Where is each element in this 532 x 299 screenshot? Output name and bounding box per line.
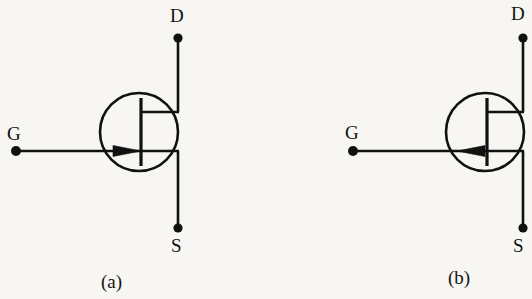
jfet-b-drain-label: D bbox=[511, 4, 525, 23]
jfet-b-gate-arrowhead-outward-icon bbox=[457, 146, 485, 157]
jfet-a-drain-terminal-dot bbox=[173, 33, 182, 42]
jfet-a-gate-terminal-dot bbox=[11, 146, 21, 156]
jfet-b-gate-label: G bbox=[345, 123, 359, 142]
diagram-b-p-channel-jfet bbox=[348, 33, 528, 232]
jfet-b-source-terminal-dot bbox=[518, 223, 527, 232]
jfet-a-envelope-circle bbox=[100, 93, 178, 171]
jfet-a-gate-label: G bbox=[7, 124, 21, 143]
jfet-b-source-label: S bbox=[513, 236, 524, 255]
diagram-a-n-channel-jfet bbox=[11, 33, 183, 232]
jfet-b-envelope-circle bbox=[446, 93, 524, 171]
figure-caption-a: (a) bbox=[101, 272, 122, 291]
jfet-a-drain-label: D bbox=[170, 6, 184, 25]
jfet-a-gate-arrowhead-inward-icon bbox=[113, 146, 141, 157]
jfet-a-source-label: S bbox=[171, 236, 182, 255]
jfet-b-drain-terminal-dot bbox=[518, 33, 527, 42]
figure-caption-b: (b) bbox=[448, 268, 470, 287]
jfet-b-gate-terminal-dot bbox=[348, 146, 358, 156]
jfet-symbols-drawing bbox=[0, 0, 532, 299]
figure-canvas: D S G (a) D S G (b) bbox=[0, 0, 532, 299]
jfet-a-source-terminal-dot bbox=[173, 223, 182, 232]
